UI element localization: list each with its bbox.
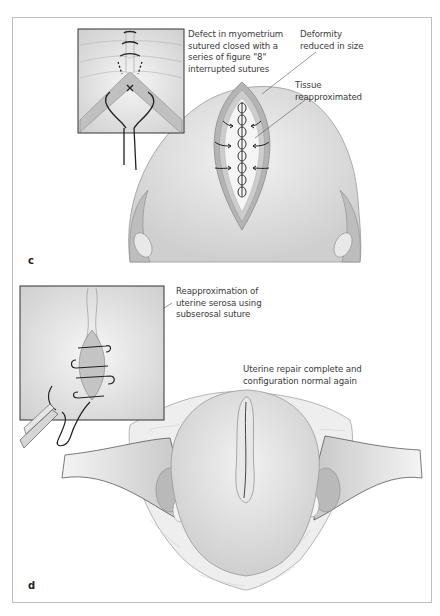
label-defect-myometrium: Defect in myometrium sutured closed with… — [188, 29, 283, 75]
label-tissue-reapproximated: Tissue reapproximated — [295, 80, 362, 103]
panel-letter-d: d — [28, 580, 35, 591]
label-uterine-repair-complete: Uterine repair complete and configuratio… — [243, 364, 362, 387]
label-serosa-reapproximation: Reapproximation of uterine serosa using … — [176, 286, 262, 321]
label-deformity-reduced: Deformity reduced in size — [300, 29, 363, 52]
panel-letter-c: c — [28, 255, 34, 266]
